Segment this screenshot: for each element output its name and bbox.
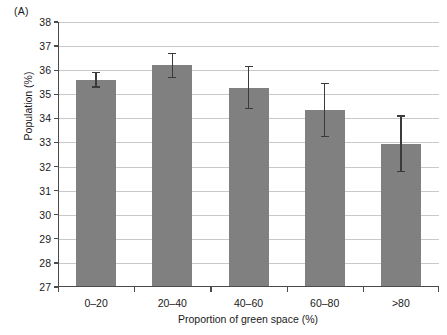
figure-panel-a: (A) Population (%) Proportion of green s… <box>0 0 447 335</box>
y-tick-label: 33 <box>39 137 51 148</box>
error-bar-cap-upper <box>321 83 329 84</box>
error-bar-cap-lower <box>92 86 100 87</box>
error-bar-cap-upper <box>397 115 405 116</box>
y-tick-label: 38 <box>39 17 51 28</box>
x-axis-title: Proportion of green space (%) <box>58 313 438 325</box>
y-tick-label: 35 <box>39 89 51 100</box>
x-tick-mark <box>287 287 288 292</box>
plot-area: 2728293031323334353637380–2020–4040–6060… <box>58 22 439 287</box>
y-tick-label: 28 <box>39 258 51 269</box>
y-axis-line <box>58 22 59 287</box>
x-tick-label: 0–20 <box>84 297 107 309</box>
error-bar-cap-upper <box>92 72 100 73</box>
bar <box>152 65 192 287</box>
error-bar-cap-lower <box>397 171 405 172</box>
gridline <box>58 46 439 47</box>
y-tick-label: 37 <box>39 41 51 52</box>
y-tick-label: 31 <box>39 185 51 196</box>
y-axis-title: Population (%) <box>22 26 34 186</box>
error-bar-cap-upper <box>168 53 176 54</box>
error-bar-line <box>95 73 96 87</box>
error-bar-line <box>172 53 173 77</box>
x-tick-label: 20–40 <box>158 297 187 309</box>
x-tick-mark <box>363 287 364 292</box>
gridline <box>58 22 439 23</box>
bar <box>229 88 269 287</box>
bar <box>76 80 116 287</box>
x-tick-mark <box>134 287 135 292</box>
x-tick-label: 40–60 <box>234 297 263 309</box>
error-bar-line <box>400 116 401 171</box>
error-bar-line <box>324 83 325 136</box>
x-tick-label: >80 <box>392 297 410 309</box>
x-tick-mark <box>438 287 439 292</box>
y-tick-label: 34 <box>39 113 51 124</box>
x-tick-mark <box>210 287 211 292</box>
y-tick-label: 30 <box>39 209 51 220</box>
error-bar-cap-lower <box>245 108 253 109</box>
error-bar-line <box>248 67 249 109</box>
error-bar-cap-lower <box>168 77 176 78</box>
y-tick-label: 27 <box>39 282 51 293</box>
y-tick-label: 36 <box>39 65 51 76</box>
x-tick-label: 60–80 <box>310 297 339 309</box>
error-bar-cap-lower <box>321 136 329 137</box>
x-axis-line <box>58 286 439 287</box>
panel-label: (A) <box>14 5 29 17</box>
y-tick-label: 32 <box>39 161 51 172</box>
y-tick-label: 29 <box>39 234 51 245</box>
plot-inner: 2728293031323334353637380–2020–4040–6060… <box>58 22 439 287</box>
x-tick-mark <box>58 287 59 292</box>
error-bar-cap-upper <box>245 66 253 67</box>
